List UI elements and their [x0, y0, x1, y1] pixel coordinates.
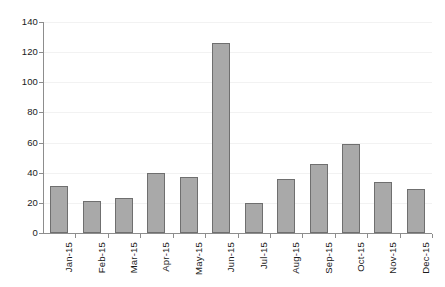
y-axis-tick-label: 120 — [8, 47, 38, 57]
y-axis-tick-label: 60 — [8, 138, 38, 148]
x-axis-tick-label: Oct-15 — [355, 242, 366, 272]
x-axis-tick — [432, 234, 433, 238]
bar-feb-15[interactable] — [83, 201, 101, 233]
gridline — [43, 52, 432, 53]
gridline — [43, 112, 432, 113]
x-axis-tick-label: Jan-15 — [63, 242, 74, 272]
y-axis-tick-label: 100 — [8, 77, 38, 87]
y-axis-tick — [39, 112, 43, 113]
x-axis-tick — [173, 234, 174, 238]
y-axis-tick — [39, 173, 43, 174]
y-axis-tick — [39, 82, 43, 83]
x-axis-tick-label: Apr-15 — [160, 242, 171, 272]
x-axis-tick — [367, 234, 368, 238]
x-axis-tick-label: Feb-15 — [96, 242, 107, 273]
bar-may-15[interactable] — [180, 177, 198, 233]
x-axis-tick-label: May-15 — [193, 242, 204, 275]
x-axis-tick-label: Dec-15 — [420, 242, 431, 274]
bar-jun-15[interactable] — [212, 43, 230, 233]
bar-oct-15[interactable] — [342, 144, 360, 233]
bar-dec-15[interactable] — [407, 189, 425, 233]
y-axis-tick-label: 20 — [8, 198, 38, 208]
y-axis-tick-label: 140 — [8, 17, 38, 27]
bar-chart: 020406080100120140 Jan-15Feb-15Mar-15Apr… — [0, 0, 445, 287]
y-axis-tick — [39, 143, 43, 144]
x-axis-tick — [335, 234, 336, 238]
x-axis-tick-label: Mar-15 — [128, 242, 139, 273]
x-axis-tick — [108, 234, 109, 238]
y-axis-tick — [39, 52, 43, 53]
bar-aug-15[interactable] — [277, 179, 295, 233]
x-axis-tick — [270, 234, 271, 238]
bar-jan-15[interactable] — [50, 186, 68, 233]
x-axis-tick — [238, 234, 239, 238]
y-axis-tick-label: 40 — [8, 168, 38, 178]
x-axis-tick — [140, 234, 141, 238]
gridline — [43, 173, 432, 174]
x-axis-tick-label: Sep-15 — [323, 242, 334, 274]
x-axis-tick — [205, 234, 206, 238]
bar-jul-15[interactable] — [245, 203, 263, 233]
x-axis-tick — [75, 234, 76, 238]
bar-nov-15[interactable] — [374, 182, 392, 233]
x-axis-tick-label: Jun-15 — [225, 242, 236, 272]
bar-mar-15[interactable] — [115, 198, 133, 233]
y-axis-tick — [39, 22, 43, 23]
x-axis-tick-label: Jul-15 — [258, 242, 269, 269]
y-axis-tick-label: 80 — [8, 107, 38, 117]
x-axis-tick — [400, 234, 401, 238]
gridline — [43, 22, 432, 23]
x-axis-tick — [302, 234, 303, 238]
plot-area — [43, 22, 432, 233]
bar-apr-15[interactable] — [147, 173, 165, 233]
x-axis-tick-label: Aug-15 — [290, 242, 301, 274]
x-axis-tick-label: Nov-15 — [387, 242, 398, 274]
y-axis-tick-label: 0 — [8, 228, 38, 238]
gridline — [43, 82, 432, 83]
gridline — [43, 143, 432, 144]
y-axis-tick — [39, 233, 43, 234]
y-axis-tick — [39, 203, 43, 204]
y-axis-line — [43, 22, 44, 234]
bar-sep-15[interactable] — [310, 164, 328, 233]
